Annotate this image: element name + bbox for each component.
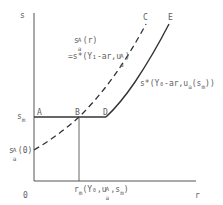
origin-label: 0 <box>23 192 28 200</box>
point-c-label: C <box>143 14 148 22</box>
solid-curve-label: s*(Y₀-ar,ua(sm)) <box>140 80 215 88</box>
diagram-canvas <box>0 0 223 205</box>
solid-curve-s-star <box>106 24 169 117</box>
x-axis-label: r <box>195 192 200 200</box>
r-m-label: rm(Y₀,uAa,sm) <box>74 186 129 194</box>
point-d-label: D <box>103 109 108 117</box>
point-a-label: A <box>37 109 42 117</box>
dashed-curve-label-line2: =s*(Y₁-ar,uAa) <box>68 53 130 61</box>
y-axis-label: s <box>20 12 25 20</box>
point-b-label: B <box>75 109 80 117</box>
point-e-label: E <box>168 14 173 22</box>
s-m-label: sm <box>17 113 25 121</box>
dashed-curve-label-line1: sAa(r) <box>74 37 97 45</box>
s-a-zero-label: sAa(0) <box>9 147 32 155</box>
